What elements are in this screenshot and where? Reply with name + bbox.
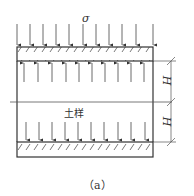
figure-caption: （a） xyxy=(83,176,112,192)
top-load-arrows xyxy=(17,24,153,45)
upward-drainage-arrows xyxy=(24,63,144,82)
dimension-label-bottom: H xyxy=(160,117,173,127)
downward-drainage-arrows xyxy=(26,122,145,140)
soil-sample-label: 土样 xyxy=(64,105,84,120)
dimension-lines xyxy=(153,57,176,146)
dimension-label-top: H xyxy=(160,76,173,86)
top-porous-stone xyxy=(17,47,153,61)
load-symbol: σ xyxy=(82,12,90,25)
bottom-porous-stone xyxy=(17,142,153,157)
soil-consolidation-diagram xyxy=(0,0,194,196)
